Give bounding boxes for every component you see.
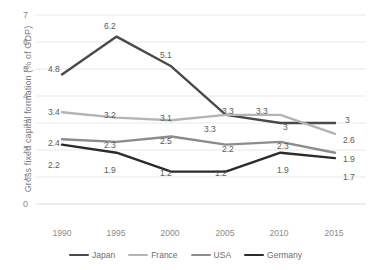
series-lines [62,37,335,172]
legend-label-france: France [151,250,177,260]
data-label-france-1995: 3.2 [104,110,116,120]
data-label-japan-2010: 3 [283,122,288,132]
legend-swatch-germany [244,254,264,257]
data-label-usa-1990: 2.4 [48,138,60,148]
data-label-germany-2010: 1.9 [277,165,289,175]
legend-label-usa: USA [214,250,231,260]
data-label-france-1990: 3.4 [48,107,60,117]
x-tick-2010: 2010 [259,228,299,238]
data-label-germany-2000: 1.2 [160,168,172,178]
data-label-usa-2000: 2.5 [160,136,172,146]
data-label-usa-2015: 1.9 [343,154,355,164]
x-tick-1990: 1990 [42,228,82,238]
legend-label-germany: Germany [267,250,302,260]
chart-container: Gross fixed capital formation (% of GDP)… [0,0,371,270]
data-label-germany-1995: 1.9 [104,165,116,175]
data-label-france-2015: 2.6 [343,135,355,145]
chart-legend: Japan France USA Germany [0,250,371,260]
series-line-germany [62,145,335,172]
data-label-france-2010: 3.3 [256,106,268,116]
legend-item-germany[interactable]: Germany [244,250,302,260]
legend-label-japan: Japan [92,250,115,260]
x-tick-1995: 1995 [96,228,136,238]
x-tick-2005: 2005 [205,228,245,238]
series-line-japan [62,37,335,123]
legend-swatch-france [128,254,148,257]
data-label-germany-1990: 2.2 [48,160,60,170]
legend-item-france[interactable]: France [128,250,177,260]
legend-swatch-japan [69,254,89,257]
legend-item-japan[interactable]: Japan [69,250,115,260]
gridlines [36,15,366,204]
legend-swatch-usa [191,254,211,257]
data-label-japan-2000: 5.1 [160,50,172,60]
legend-item-usa[interactable]: USA [191,250,231,260]
data-label-germany-2005: 1.2 [215,168,227,178]
data-label-japan-1995: 6.2 [104,21,116,31]
data-label-usa-2005: 2.2 [222,144,234,154]
data-label-germany-2015: 1.7 [343,172,355,182]
x-tick-2000: 2000 [150,228,190,238]
data-label-japan-2015: 3 [345,115,350,125]
data-label-france-2005: 3.3 [204,124,216,134]
data-label-japan-1990: 4.8 [48,64,60,74]
data-label-usa-1995: 2.3 [104,140,116,150]
data-label-usa-2010: 2.3 [277,141,289,151]
x-tick-2015: 2015 [314,228,354,238]
data-label-france-2000: 3.1 [160,113,172,123]
data-label-japan-2005: 3.3 [222,106,234,116]
